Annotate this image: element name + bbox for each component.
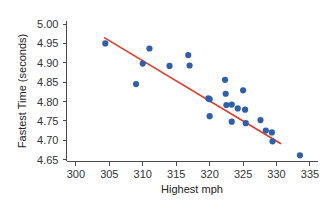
data-point	[269, 129, 275, 135]
data-point	[223, 91, 229, 97]
x-tick-label: 320	[200, 168, 218, 180]
data-point	[223, 102, 229, 108]
y-tick-label: 4.90	[37, 57, 58, 69]
data-point	[243, 120, 249, 126]
y-tick-label: 4.80	[37, 96, 58, 108]
regression-line	[105, 38, 281, 144]
y-tick-label: 4.85	[37, 76, 58, 88]
data-point	[207, 113, 213, 119]
data-point	[229, 119, 235, 125]
data-point	[229, 102, 235, 108]
y-tick-label: 4.70	[37, 134, 58, 146]
data-point	[263, 127, 269, 133]
data-point	[269, 138, 275, 144]
data-point	[186, 62, 192, 68]
regression-line-group	[105, 38, 281, 144]
data-point	[222, 77, 228, 83]
y-tick-label: 4.65	[37, 154, 58, 166]
x-tick-label: 300	[67, 168, 85, 180]
plot-canvas: 4.654.704.754.804.854.904.955.00 3003053…	[0, 0, 334, 209]
data-point	[242, 107, 248, 113]
x-tick-label: 305	[100, 168, 118, 180]
data-point	[297, 152, 303, 158]
data-point	[146, 45, 152, 51]
data-point	[235, 105, 241, 111]
data-point	[133, 81, 139, 87]
data-point	[102, 40, 108, 46]
x-tick-label: 315	[167, 168, 185, 180]
y-axis-title: Fastest Time (seconds)	[16, 34, 28, 148]
y-tick-label: 4.95	[37, 37, 58, 49]
data-point	[207, 96, 213, 102]
y-axis-ticks: 4.654.704.754.804.854.904.955.00	[37, 18, 66, 165]
x-tick-label: 330	[267, 168, 285, 180]
data-points-group	[102, 40, 303, 158]
y-tick-label: 4.75	[37, 115, 58, 127]
x-tick-label: 325	[234, 168, 252, 180]
x-tick-label: 310	[134, 168, 152, 180]
data-point	[240, 87, 246, 93]
scatter-plot-figure: 4.654.704.754.804.854.904.955.00 3003053…	[0, 0, 334, 209]
x-tick-label: 335	[301, 168, 319, 180]
data-point	[140, 60, 146, 66]
data-point	[166, 63, 172, 69]
y-tick-label: 5.00	[37, 18, 58, 30]
x-axis-ticks: 300305310315320325330335	[67, 162, 319, 180]
x-axis-title: Highest mph	[161, 183, 223, 195]
data-point	[185, 52, 191, 58]
data-point	[257, 117, 263, 123]
